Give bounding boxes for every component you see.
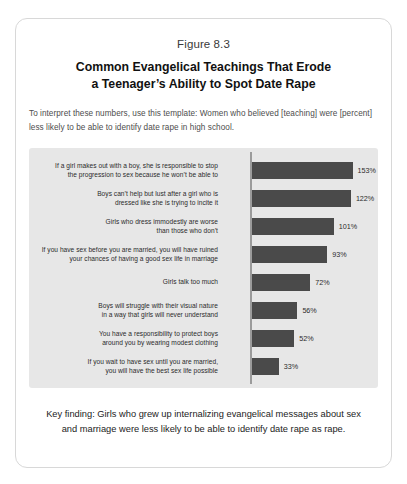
bar-track: 93%	[252, 240, 376, 268]
bar	[252, 302, 297, 319]
bar-category-label-line-1: Boys will struggle with their visual nat…	[15, 301, 218, 310]
bar-value-label: 93%	[332, 250, 346, 259]
bar	[252, 246, 327, 263]
bar	[252, 162, 353, 179]
bar-category-label: Girls talk too much	[15, 277, 218, 286]
bar-value-label: 122%	[356, 194, 374, 203]
bar-value-label: 52%	[299, 334, 313, 343]
bar-row: Boys can’t help but lust after a girl wh…	[29, 184, 378, 212]
bar-category-label: Boys can’t help but lust after a girl wh…	[15, 189, 218, 207]
bar-category-label-line-2: around you by wearing modest clothing	[15, 338, 218, 347]
figure-card: Figure 8.3 Common Evangelical Teachings …	[15, 18, 392, 468]
bar-track: 72%	[252, 268, 376, 296]
bar-track: 56%	[252, 296, 376, 324]
bar	[252, 330, 294, 347]
bar-track: 33%	[252, 352, 376, 380]
bar-value-label: 101%	[339, 222, 357, 231]
bar-category-label-line-2: dressed like she is trying to incite it	[15, 198, 218, 207]
bar-category-label: If you wait to have sex until you are ma…	[15, 357, 218, 375]
figure-footer-key-finding: Key finding: Girls who grew up internali…	[16, 407, 391, 436]
bar-track: 153%	[252, 156, 376, 184]
bar-category-label-line-2: your chances of having a good sex life i…	[15, 254, 218, 263]
bar-row: Girls who dress immodestly are worsethan…	[29, 212, 378, 240]
bar-row: Girls talk too much72%	[29, 268, 378, 296]
bar-category-label-line-1: You have a responsibility to protect boy…	[15, 329, 218, 338]
figure-number: Figure 8.3	[16, 38, 391, 50]
bar	[252, 218, 334, 235]
bar-row: If you wait to have sex until you are ma…	[29, 352, 378, 380]
bar-track: 101%	[252, 212, 376, 240]
bar-category-label-line-1: Boys can’t help but lust after a girl wh…	[15, 189, 218, 198]
bar-rows: If a girl makes out with a boy, she is r…	[29, 148, 378, 388]
bar-value-label: 56%	[302, 306, 316, 315]
bar-category-label-line-1: If you wait to have sex until you are ma…	[15, 357, 218, 366]
figure-subtitle: To interpret these numbers, use this tem…	[16, 107, 391, 135]
bar-category-label-line-1: Girls who dress immodestly are worse	[15, 217, 218, 226]
bar-row: If a girl makes out with a boy, she is r…	[29, 156, 378, 184]
bar-category-label: If you have sex before you are married, …	[15, 245, 218, 263]
bar	[252, 358, 279, 375]
bar-row: Boys will struggle with their visual nat…	[29, 296, 378, 324]
bar-value-label: 72%	[315, 278, 329, 287]
bar-category-label: You have a responsibility to protect boy…	[15, 329, 218, 347]
bar-value-label: 153%	[358, 166, 376, 175]
bar-chart-panel: If a girl makes out with a boy, she is r…	[29, 148, 378, 388]
bar-row: You have a responsibility to protect boy…	[29, 324, 378, 352]
bar	[252, 190, 351, 207]
figure-title: Common Evangelical Teachings That Erode …	[16, 59, 391, 92]
bar-category-label-line-2: the progression to sex because he won’t …	[15, 170, 218, 179]
bar-category-label: Boys will struggle with their visual nat…	[15, 301, 218, 319]
bar-category-label-line-2: in a way that girls will never understan…	[15, 310, 218, 319]
bar-category-label: Girls who dress immodestly are worsethan…	[15, 217, 218, 235]
bar-category-label-line-1: If a girl makes out with a boy, she is r…	[15, 161, 218, 170]
bar-category-label: If a girl makes out with a boy, she is r…	[15, 161, 218, 179]
bar-category-label-line-2: you will have the best sex life possible	[15, 366, 218, 375]
bar-track: 122%	[252, 184, 376, 212]
bar-track: 52%	[252, 324, 376, 352]
bar-value-label: 33%	[284, 362, 298, 371]
bar-row: If you have sex before you are married, …	[29, 240, 378, 268]
bar-category-label-line-1: Girls talk too much	[15, 277, 218, 286]
bar-category-label-line-1: If you have sex before you are married, …	[15, 245, 218, 254]
figure-title-line-2: a Teenager’s Ability to Spot Date Rape	[36, 76, 371, 93]
bar-category-label-line-2: than those who don’t	[15, 226, 218, 235]
figure-title-line-1: Common Evangelical Teachings That Erode	[36, 59, 371, 76]
bar	[252, 274, 310, 291]
